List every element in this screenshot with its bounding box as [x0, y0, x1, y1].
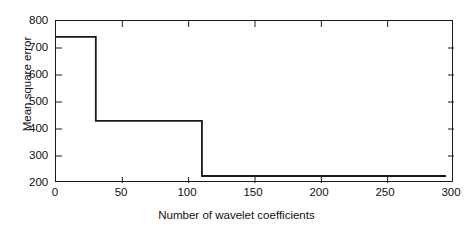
plot-area	[55, 20, 453, 182]
x-tick-marks	[122, 21, 387, 183]
x-axis-title: Number of wavelet coefficients	[0, 209, 473, 221]
x-tick-label-200: 200	[299, 186, 339, 198]
y-axis-title: Mean square error	[21, 9, 33, 159]
chart-figure: 800 700 600 500 400 300 200 0 50 100 150…	[0, 0, 473, 232]
data-series-line	[56, 37, 446, 176]
x-tick-label-250: 250	[365, 186, 405, 198]
plot-svg	[56, 21, 454, 183]
x-tick-label-50: 50	[101, 186, 141, 198]
x-tick-label-100: 100	[167, 186, 207, 198]
x-tick-label-300: 300	[431, 186, 471, 198]
x-tick-label-150: 150	[233, 186, 273, 198]
x-tick-label-0: 0	[35, 186, 75, 198]
y-tick-marks	[56, 48, 454, 156]
